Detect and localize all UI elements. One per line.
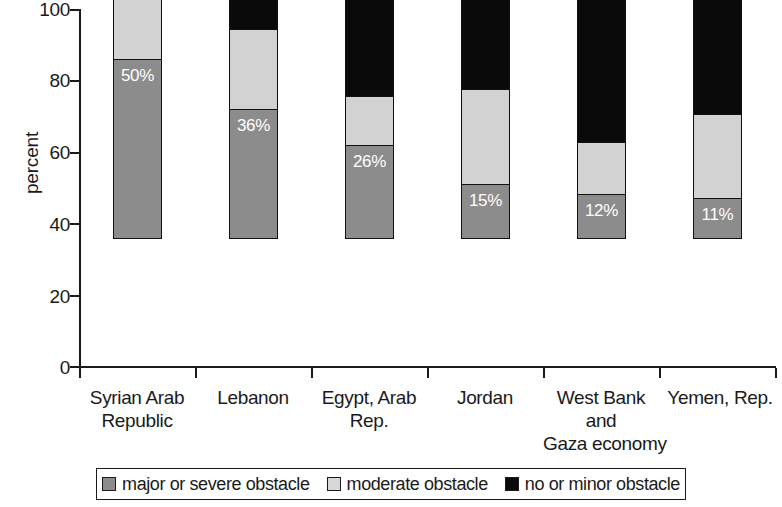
segment-major-or-severe-obstacle: 12% bbox=[578, 195, 625, 238]
legend-item-no-or-minor-obstacle: no or minor obstacle bbox=[505, 474, 680, 495]
segment-major-or-severe-obstacle: 36% bbox=[230, 110, 277, 238]
x-label-line: Yemen, Rep. bbox=[659, 386, 781, 409]
legend-swatch-icon-no-or-minor-obstacle bbox=[505, 477, 519, 491]
bar-syrian-arab-republic: 50% bbox=[113, 0, 162, 239]
bar-lebanon: 36% bbox=[229, 0, 278, 239]
bar-egypt-arab-rep: 26% bbox=[345, 0, 394, 239]
x-label-jordan: Jordan bbox=[427, 386, 543, 409]
segment-moderate-obstacle bbox=[462, 89, 509, 185]
x-label-line: Gaza economy bbox=[543, 432, 659, 455]
x-label-syrian-arab-republic: Syrian Arab Republic bbox=[79, 386, 195, 432]
bar-west-bank-and-gaza-economy: 12% bbox=[577, 0, 626, 239]
bar-yemen-rep: 11% bbox=[693, 0, 742, 239]
segment-no-or-minor-obstacle bbox=[578, 0, 625, 142]
stacked-bar-chart-figure: percent 100 80 60 40 20 0 50% bbox=[0, 0, 782, 507]
x-label-egypt-arab-rep: Egypt, Arab Rep. bbox=[311, 386, 427, 432]
legend-swatch-icon-moderate-obstacle bbox=[327, 477, 341, 491]
x-label-line: and bbox=[543, 409, 659, 432]
chart-legend: major or severe obstacle moderate obstac… bbox=[96, 468, 686, 500]
segment-data-label: 50% bbox=[114, 66, 161, 86]
segment-no-or-minor-obstacle bbox=[230, 0, 277, 29]
x-label-line: Lebanon bbox=[195, 386, 311, 409]
legend-item-moderate-obstacle: moderate obstacle bbox=[327, 474, 488, 495]
segment-data-label: 12% bbox=[578, 201, 625, 221]
segment-major-or-severe-obstacle: 15% bbox=[462, 185, 509, 238]
x-label-line: Rep. bbox=[311, 409, 427, 432]
x-label-line: Syrian Arab bbox=[79, 386, 195, 409]
x-label-line: West Bank bbox=[543, 386, 659, 409]
legend-label: no or minor obstacle bbox=[525, 474, 680, 495]
segment-moderate-obstacle bbox=[114, 0, 161, 60]
segment-no-or-minor-obstacle bbox=[694, 0, 741, 114]
segment-data-label: 15% bbox=[462, 191, 509, 211]
segment-data-label: 26% bbox=[346, 152, 393, 172]
segment-moderate-obstacle bbox=[230, 29, 277, 111]
x-label-west-bank-and-gaza-economy: West Bank and Gaza economy bbox=[543, 386, 659, 455]
x-label-lebanon: Lebanon bbox=[195, 386, 311, 409]
legend-label: moderate obstacle bbox=[347, 474, 488, 495]
segment-major-or-severe-obstacle: 26% bbox=[346, 146, 393, 238]
plot-area: 50% 36% 26% 15% bbox=[0, 0, 782, 380]
x-label-line: Egypt, Arab bbox=[311, 386, 427, 409]
legend-label: major or severe obstacle bbox=[122, 474, 310, 495]
x-label-line: Jordan bbox=[427, 386, 543, 409]
legend-swatch-icon-major-or-severe-obstacle bbox=[102, 477, 116, 491]
segment-no-or-minor-obstacle bbox=[346, 0, 393, 96]
segment-moderate-obstacle bbox=[694, 114, 741, 199]
segment-data-label: 11% bbox=[694, 205, 741, 225]
segment-moderate-obstacle bbox=[578, 142, 625, 195]
legend-item-major-or-severe-obstacle: major or severe obstacle bbox=[102, 474, 310, 495]
x-label-line: Republic bbox=[79, 409, 195, 432]
segment-no-or-minor-obstacle bbox=[462, 0, 509, 89]
segment-moderate-obstacle bbox=[346, 96, 393, 146]
x-label-yemen-rep: Yemen, Rep. bbox=[659, 386, 781, 409]
bar-jordan: 15% bbox=[461, 0, 510, 239]
segment-major-or-severe-obstacle: 50% bbox=[114, 60, 161, 238]
segment-major-or-severe-obstacle: 11% bbox=[694, 199, 741, 238]
segment-data-label: 36% bbox=[230, 116, 277, 136]
